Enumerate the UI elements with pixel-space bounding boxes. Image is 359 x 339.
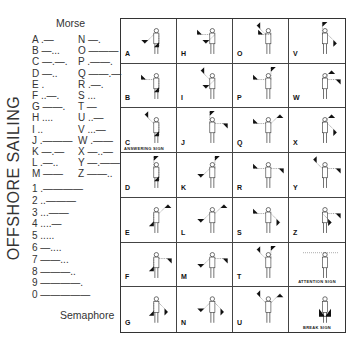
semaphore-cell-o: O [233,19,289,64]
morse-code-f: F ..—. [32,90,73,101]
semaphore-cell-m: M [177,243,233,288]
semaphore-cell-a: A [121,19,177,64]
semaphore-cell-q: Q [233,108,289,153]
morse-code-i: I .. [32,124,73,135]
morse-code-0: 0 ————— [32,289,90,301]
semaphore-letter: P [237,94,242,101]
morse-code-q: Q ——.— [78,68,121,79]
semaphore-cell-k: K [177,153,233,198]
semaphore-cell-j: J [177,108,233,153]
morse-code-g: G ——. [32,101,73,112]
semaphore-letter: S [237,229,242,236]
semaphore-letter: N [181,319,186,326]
morse-code-z: Z ——.. [78,168,121,179]
semaphore-cell-z: Z [289,198,345,243]
semaphore-cell-v: V [289,19,345,64]
morse-code-a: A .— [32,34,73,45]
semaphore-cell-d: D [121,153,177,198]
semaphore-letter: L [181,229,185,236]
semaphore-cell-b: B [121,64,177,109]
morse-code-2: 2 ..——— [32,195,90,207]
morse-code-8: 8 ———.. [32,266,90,278]
morse-code-s: S ... [78,90,121,101]
semaphore-letter: U [237,319,242,326]
semaphore-letter: V [293,50,298,57]
morse-code-4: 4 ....— [32,218,90,230]
morse-code-u: U ..— [78,112,121,123]
semaphore-letter: Y [293,184,298,191]
morse-code-k: K —.— [32,146,73,157]
semaphore-letter: T [237,273,241,280]
morse-code-7: 7 ——... [32,254,90,266]
semaphore-letter: J [181,139,185,146]
semaphore-letter: A [125,50,130,57]
semaphore-cell-t: T [233,243,289,288]
morse-code-w: W .—— [78,135,121,146]
semaphore-cell-l: L [177,198,233,243]
semaphore-caption: ATTENTION SIGN [289,279,345,284]
semaphore-cell-g: G [121,287,177,332]
semaphore-heading: Semaphore [60,309,114,321]
morse-code-y: Y —.—— [78,157,121,168]
morse-code-c: C —.—. [32,56,73,67]
morse-code-9: 9 ————. [32,277,90,289]
morse-digits: 1 .———— 2 ..——— 3 ...—— 4 ....— 5 ..... … [32,183,90,301]
semaphore-grid: AHOVBIPWCANSWERING SIGNJQXDKRYELSZFMTATT… [120,18,346,333]
semaphore-cell-attention-sign: ATTENTION SIGN [289,243,345,288]
semaphore-letter: M [181,273,187,280]
morse-code-h: H .... [32,112,73,123]
morse-code-x: X —..— [78,146,121,157]
morse-letters-n-z: N —. O ——— P .——. Q ——.— R .—. S ... T —… [78,34,121,180]
semaphore-cell-u: U [233,287,289,332]
morse-code-j: J .——— [32,135,73,146]
semaphore-cell-x: X [289,108,345,153]
semaphore-letter: O [237,50,242,57]
semaphore-letter: D [125,184,130,191]
semaphore-caption: BREAK SIGN [289,325,345,330]
morse-letters-a-m: A .— B —... C —.—. D —.. E . F ..—. G ——… [32,34,73,180]
semaphore-cell-e: E [121,198,177,243]
semaphore-cell-n: N [177,287,233,332]
semaphore-cell-y: Y [289,153,345,198]
semaphore-letter: X [293,139,298,146]
semaphore-letter: I [181,94,183,101]
semaphore-letter: W [293,94,300,101]
semaphore-letter: Z [293,229,297,236]
semaphore-letter: B [125,94,130,101]
morse-code-d: D —.. [32,68,73,79]
semaphore-letter: C [125,139,130,146]
semaphore-cell-p: P [233,64,289,109]
semaphore-letter: G [125,319,130,326]
morse-code-6: 6 —.... [32,242,90,254]
morse-code-m: M —— [32,168,73,179]
semaphore-cell-s: S [233,198,289,243]
semaphore-cell-break-sign: BREAK SIGN [289,287,345,332]
morse-code-1: 1 .———— [32,183,90,195]
morse-code-5: 5 ..... [32,230,90,242]
semaphore-cell-c: CANSWERING SIGN [121,108,177,153]
morse-code-p: P .——. [78,56,121,67]
semaphore-cell-f: F [121,243,177,288]
semaphore-letter: Q [237,139,242,146]
semaphore-letter: K [181,184,186,191]
semaphore-cell-i: I [177,64,233,109]
morse-code-l: L .—.. [32,157,73,168]
semaphore-letter: F [125,273,129,280]
semaphore-letter: E [125,229,130,236]
vertical-title: OFFSHORE SAILING [5,96,23,260]
morse-code-b: B —... [32,45,73,56]
morse-code-3: 3 ...—— [32,207,90,219]
morse-code-t: T — [78,101,121,112]
semaphore-letter: H [181,50,186,57]
semaphore-cell-h: H [177,19,233,64]
morse-code-n: N —. [78,34,121,45]
morse-code-o: O ——— [78,45,121,56]
semaphore-cell-w: W [289,64,345,109]
morse-heading: Morse [56,17,85,29]
semaphore-letter: R [237,184,242,191]
morse-code-v: V ...— [78,124,121,135]
semaphore-caption: ANSWERING SIGN [124,146,176,151]
semaphore-cell-r: R [233,153,289,198]
morse-code-r: R .—. [78,79,121,90]
morse-code-e: E . [32,79,73,90]
